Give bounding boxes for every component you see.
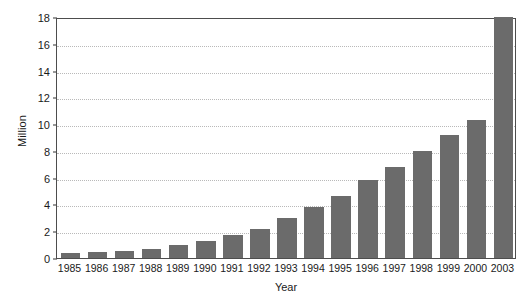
x-axis-tick-label: 1997 [381,262,408,274]
y-axis-tick-labels: 024681012141618 [28,18,50,259]
y-axis-tick-label: 4 [44,199,50,211]
x-axis-tick-label: 1988 [137,262,164,274]
y-axis-tick-label: 18 [38,12,50,24]
bar [142,249,161,258]
x-axis-tick-label: 1992 [245,262,272,274]
x-axis-tick-label: 1999 [435,262,462,274]
x-axis-tick-label: 1993 [272,262,299,274]
bars-layer [57,19,515,258]
x-axis-tick-label: 1996 [354,262,381,274]
bar [250,229,269,258]
plot-area [56,18,516,259]
x-axis-tick-label: 1990 [191,262,218,274]
bar [494,17,513,258]
y-axis-tick-label: 16 [38,39,50,51]
bar [169,245,188,258]
y-axis-tick-label: 12 [38,92,50,104]
bar [440,135,459,258]
x-axis-tick-label: 1991 [218,262,245,274]
x-axis-tick-label: 2003 [489,262,516,274]
x-axis-title: Year [56,281,516,293]
bar [223,235,242,258]
x-axis-tick-label: 1998 [408,262,435,274]
y-axis-tick-label: 10 [38,119,50,131]
x-axis-tick-labels: 1985198619871988198919901991199219931994… [56,262,516,278]
x-axis-tick-label: 1985 [56,262,83,274]
bar [358,180,377,258]
bar [467,120,486,258]
bar [61,253,80,258]
bar [196,241,215,258]
y-axis-tick-label: 6 [44,173,50,185]
bar [413,151,432,258]
bar [385,167,404,258]
x-axis-tick-label: 2000 [462,262,489,274]
x-axis-tick-label: 1989 [164,262,191,274]
bar [88,252,107,258]
x-axis-tick-label: 1994 [300,262,327,274]
y-axis-tick-label: 0 [44,253,50,265]
y-axis-title-label: Million [16,115,28,147]
x-axis-tick-label: 1986 [83,262,110,274]
bar [115,251,134,258]
bar [277,218,296,258]
y-axis-tick-label: 2 [44,226,50,238]
bar [331,196,350,258]
y-axis-tick-label: 8 [44,146,50,158]
x-axis-tick-label: 1987 [110,262,137,274]
x-axis-tick-label: 1995 [327,262,354,274]
y-axis-tick-label: 14 [38,66,50,78]
bar [304,207,323,258]
bar-chart: Million 024681012141618 1985198619871988… [0,0,529,308]
